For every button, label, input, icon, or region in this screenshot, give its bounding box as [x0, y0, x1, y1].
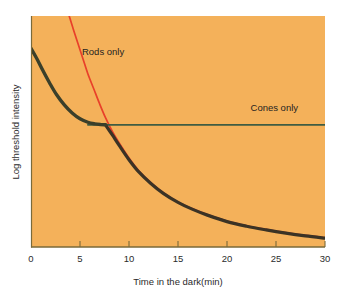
x-axis-tick-labels: 051015202530	[28, 253, 330, 264]
x-tick-label-5: 5	[77, 253, 82, 264]
dark-adaptation-chart: 051015202530 Time in the dark(min) Log t…	[0, 0, 343, 297]
x-tick-label-10: 10	[124, 253, 135, 264]
x-tick-label-0: 0	[28, 253, 33, 264]
annotation-rods-only: Rods only	[82, 46, 124, 57]
x-tick-label-15: 15	[173, 253, 184, 264]
x-tick-label-25: 25	[271, 253, 282, 264]
x-tick-label-30: 30	[320, 253, 331, 264]
chart-figure: 051015202530 Time in the dark(min) Log t…	[0, 0, 343, 297]
plot-area-background	[31, 16, 325, 247]
x-tick-label-20: 20	[222, 253, 233, 264]
y-axis-title: Log threshold intensity	[10, 84, 21, 179]
x-axis-title: Time in the dark(min)	[133, 276, 222, 287]
annotation-cones-only: Cones only	[251, 102, 299, 113]
